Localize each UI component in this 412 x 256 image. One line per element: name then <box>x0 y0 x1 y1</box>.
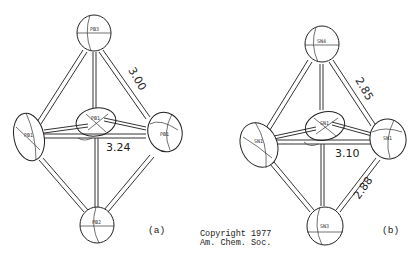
atom-b-bottom: SN3 <box>307 207 343 245</box>
panel-label: (b) <box>382 225 399 236</box>
atom-b-top: SN4 <box>305 26 339 62</box>
atom-b-right: SN1 <box>367 116 409 162</box>
distance-label: 2.88 <box>351 174 376 202</box>
atom-label: PB1 <box>24 132 33 138</box>
atom-label: SN1 <box>254 138 263 144</box>
panel-b: SN4 SN1 SN1 SN1 SN3 <box>233 26 409 245</box>
atom-label: SN3 <box>320 223 329 229</box>
atom-a-top: PB3 <box>77 15 111 51</box>
atom-b-left: SN1 <box>233 117 285 174</box>
distance-label: 3.00 <box>125 65 149 93</box>
atom-label: SN1 <box>320 120 329 126</box>
atom-label: PB2 <box>92 219 101 225</box>
distance-label: 3.10 <box>335 147 360 160</box>
atom-a-right: PB1 <box>143 108 186 155</box>
atom-label: PB1 <box>91 115 100 121</box>
octahedral-clusters-figure: .bond { stroke: #333; stroke-width: 1; f… <box>0 0 412 256</box>
atom-a-bottom: PB2 <box>80 207 114 243</box>
distance-label: 2.85 <box>352 75 376 103</box>
atom-label: SN4 <box>317 38 326 44</box>
atom-a-left: PB1 <box>9 110 48 163</box>
panel-a: PB3 PB1 PB1 PB1 PB2 <box>9 15 186 243</box>
atom-label: SN1 <box>383 135 392 141</box>
copyright-notice: Copyright 1977 Am. Chem. Soc. <box>200 230 271 248</box>
atom-label: PB1 <box>160 131 169 137</box>
copyright-line-2: Am. Chem. Soc. <box>200 238 271 248</box>
panel-label: (a) <box>148 225 165 236</box>
distance-label: 3.24 <box>106 141 131 154</box>
atom-label: PB3 <box>90 26 99 32</box>
